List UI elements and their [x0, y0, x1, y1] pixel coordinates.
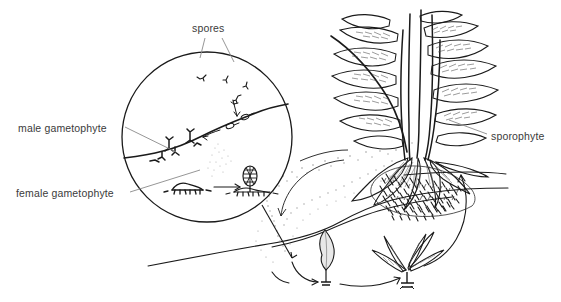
- label-sporophyte: sporophyte: [491, 130, 544, 142]
- fern-life-cycle-figure: [0, 0, 561, 302]
- label-spores: spores: [192, 22, 224, 34]
- label-male-gametophyte: male gametophyte: [18, 122, 107, 134]
- label-female-gametophyte: female gametophyte: [16, 187, 114, 199]
- magnified-circle-inset: [122, 52, 292, 222]
